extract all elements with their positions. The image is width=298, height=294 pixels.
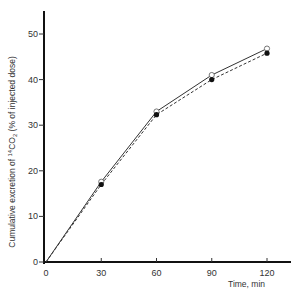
x-tick-label: 60 bbox=[151, 268, 161, 278]
filled-circle-marker bbox=[154, 112, 159, 117]
chart: 030609012001020304050Time, minCumulative… bbox=[0, 0, 298, 294]
x-axis-label: Time, min bbox=[228, 279, 265, 289]
x-tick-label: 120 bbox=[259, 268, 274, 278]
y-tick-label: 0 bbox=[33, 257, 38, 267]
series-line-filled bbox=[46, 53, 267, 262]
series-line-open bbox=[46, 49, 267, 262]
y-tick-label: 10 bbox=[28, 211, 38, 221]
filled-circle-marker bbox=[209, 77, 214, 82]
y-tick-label: 20 bbox=[28, 166, 38, 176]
y-axis-label: Cumulative excretion of 14CO2 (% of inje… bbox=[7, 56, 18, 248]
axis-labels: 030609012001020304050Time, minCumulative… bbox=[7, 29, 275, 289]
x-tick-label: 30 bbox=[96, 268, 106, 278]
open-circle-marker bbox=[209, 72, 214, 77]
x-tick-label: 0 bbox=[43, 268, 48, 278]
open-circle-marker bbox=[264, 46, 269, 51]
axes bbox=[39, 11, 291, 264]
y-tick-label: 40 bbox=[28, 75, 38, 85]
filled-circle-marker bbox=[264, 51, 269, 56]
y-tick-label: 50 bbox=[28, 29, 38, 39]
x-tick-label: 90 bbox=[207, 268, 217, 278]
y-tick-label: 30 bbox=[28, 120, 38, 130]
filled-circle-marker bbox=[99, 182, 104, 187]
data-series bbox=[46, 46, 270, 262]
